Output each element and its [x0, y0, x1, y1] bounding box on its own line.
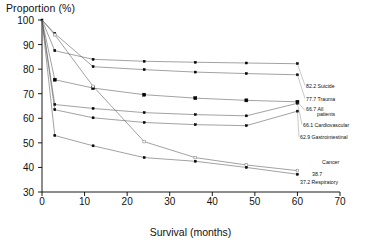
- endpoint-label-trauma: 77.7 Trauma: [306, 96, 335, 102]
- data-point: [194, 124, 196, 126]
- data-point: [143, 112, 145, 114]
- data-point: [143, 69, 145, 71]
- y-tick-50: 50: [4, 137, 34, 148]
- data-point: [143, 157, 145, 159]
- data-point: [296, 169, 299, 172]
- data-point: [296, 173, 298, 175]
- endpoint-series-name: Cardiovascular: [313, 122, 349, 128]
- endpoint-value: 62.9: [300, 134, 310, 140]
- data-point: [92, 85, 95, 88]
- data-point: [92, 117, 94, 119]
- y-tick-40: 40: [4, 162, 34, 173]
- data-point: [245, 73, 247, 75]
- series-cardiovascular: [42, 20, 298, 117]
- endpoint-label-suicide: 82.2 Suicide: [306, 83, 335, 89]
- data-point: [54, 134, 56, 136]
- endpoint-value: 77.7: [306, 96, 316, 102]
- data-point: [194, 156, 197, 159]
- endpoint-value: 38.7: [312, 171, 322, 177]
- data-point: [194, 61, 196, 63]
- endpoint-series-name: Trauma: [316, 96, 335, 102]
- data-point: [92, 66, 94, 68]
- data-point: [245, 164, 248, 167]
- data-point: [54, 50, 56, 52]
- x-tick-40: 40: [200, 196, 224, 207]
- data-point: [245, 62, 247, 64]
- series-cancer: [42, 20, 299, 172]
- x-tick-20: 20: [115, 196, 139, 207]
- axes-layer: [38, 20, 340, 196]
- series-respiratory: [42, 20, 298, 175]
- x-tick-0: 0: [30, 196, 54, 207]
- series-suicide: [41, 19, 298, 65]
- x-tick-10: 10: [73, 196, 97, 207]
- endpoint-label-all: 66.7 Allpatients: [306, 107, 335, 119]
- data-point: [194, 114, 196, 116]
- endpoint-series-name: Gastrointestinal: [310, 134, 347, 140]
- endpoint-series-name: Respiratory: [310, 179, 338, 185]
- x-tick-30: 30: [158, 196, 182, 207]
- survival-proportion-chart: Proportion (%) Survival (months) 3040506…: [0, 0, 381, 251]
- endpoint-label-respiratory: 37.2 Respiratory: [300, 179, 338, 185]
- data-point: [194, 160, 196, 162]
- data-point: [143, 121, 145, 123]
- data-point: [92, 107, 94, 109]
- endpoint-value: 82.2: [306, 83, 316, 89]
- y-tick-70: 70: [4, 88, 34, 99]
- data-point: [245, 125, 247, 127]
- data-point: [143, 140, 146, 143]
- series-layer: [41, 19, 299, 175]
- endpoint-label-cancer: 38.7: [312, 171, 322, 177]
- series-gastrointestinal: [42, 20, 298, 127]
- y-tick-80: 80: [4, 64, 34, 75]
- data-point: [245, 115, 247, 117]
- data-point: [245, 166, 247, 168]
- data-point: [53, 78, 56, 81]
- endpoint-value: 37.2: [300, 179, 310, 185]
- endpoint-label-cardiovascular: 66.1 Cardiovascular: [303, 122, 349, 128]
- x-tick-70: 70: [328, 196, 352, 207]
- data-point: [143, 60, 145, 62]
- x-tick-50: 50: [243, 196, 267, 207]
- data-point: [53, 33, 56, 36]
- endpoint-value: 66.7: [306, 106, 316, 112]
- y-tick-60: 60: [4, 113, 34, 124]
- data-point: [194, 97, 197, 100]
- endpoint-series-name-line2: patients: [317, 112, 335, 118]
- free-label-cancer: Cancer: [322, 159, 339, 165]
- data-point: [245, 99, 248, 102]
- y-tick-100: 100: [4, 15, 34, 26]
- data-point: [296, 74, 298, 76]
- x-tick-60: 60: [285, 196, 309, 207]
- series-trauma: [42, 20, 298, 76]
- endpoint-label-gastrointestinal: 62.9 Gastrointestinal: [300, 134, 348, 140]
- endpoint-value: 66.1: [303, 122, 313, 128]
- data-point: [194, 71, 196, 73]
- y-tick-90: 90: [4, 39, 34, 50]
- data-point: [92, 58, 94, 60]
- data-point: [92, 145, 94, 147]
- data-point: [54, 109, 56, 111]
- data-point: [143, 93, 146, 96]
- endpoint-series-name: Suicide: [316, 83, 334, 89]
